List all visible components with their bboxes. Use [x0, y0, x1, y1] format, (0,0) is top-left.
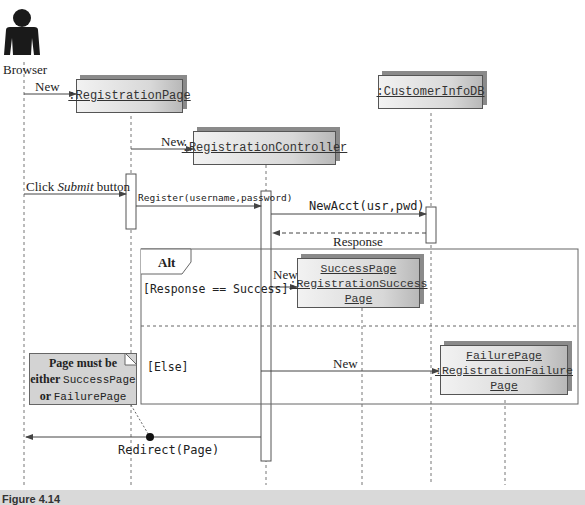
object-label: :CustomerInfoDB [376, 85, 484, 100]
actor-icon [4, 9, 40, 55]
object-failure-page[interactable]: FailurePage:RegistrationFailurePage [440, 345, 568, 395]
object-customer-info-db[interactable]: :CustomerInfoDB [378, 75, 483, 109]
object-registration-controller[interactable]: :RegistrationController [193, 131, 336, 165]
fragment-operator: Alt [158, 255, 175, 271]
note-text: SuccessPage [63, 374, 136, 386]
note-text: either [30, 372, 63, 386]
message-redirect: Redirect(Page) [118, 443, 219, 457]
object-label: :RegistrationFailure [435, 363, 573, 378]
object-registration-page[interactable]: :RegistrationPage [76, 79, 183, 113]
fragment-guard-success: [Response == Success] [143, 282, 288, 296]
figure-caption-bar: Figure 4.14 [0, 490, 585, 505]
note-text: FailurePage [54, 391, 127, 403]
object-label: FailurePage [435, 348, 573, 363]
note-text: or [40, 389, 54, 403]
message-new-controller: New [161, 134, 186, 150]
object-label: :RegistrationController [182, 141, 348, 156]
message-new-success: New [273, 267, 298, 283]
message-response: Response [333, 234, 383, 250]
fragment-guard-else: [Else] [147, 360, 189, 374]
text: Submit [57, 179, 93, 194]
note-line: Page must be [30, 355, 136, 371]
object-label: SuccessPage [289, 261, 427, 276]
object-label: Page [289, 291, 427, 306]
object-label: :RegistrationPage [68, 89, 190, 104]
sequence-diagram-lines [0, 0, 585, 505]
text: Click [26, 179, 57, 194]
message-new-page: New [35, 79, 60, 95]
figure-caption: Figure 4.14 [2, 493, 60, 505]
object-label: Page [435, 378, 573, 393]
message-click-submit: Click Submit button [26, 179, 130, 195]
actor-label: Browser [3, 62, 47, 78]
message-new-acct: NewAcct(usr,pwd) [309, 199, 425, 213]
message-register: Register(username,password) [138, 192, 292, 203]
message-new-failure: New [333, 356, 358, 372]
object-label: :RegistrationSuccess [289, 276, 427, 291]
note: Page must be either SuccessPage or Failu… [29, 353, 137, 405]
object-success-page[interactable]: SuccessPage:RegistrationSuccessPage [297, 258, 420, 308]
text: button [94, 179, 130, 194]
